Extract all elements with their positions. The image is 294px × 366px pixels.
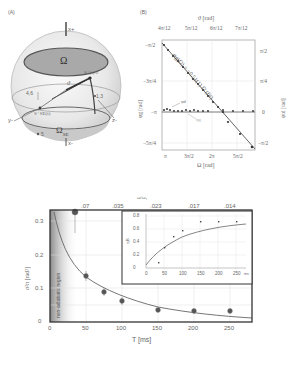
panel-a-label: (A) [8,9,15,15]
phi-g-label: φg [196,117,201,122]
inset-x-tick-50: 50 [162,271,167,276]
phi-d-label: φd [181,99,186,104]
y-axis-title: σ²π [rad²] [24,267,30,290]
bottom-tick-3: 5π/2 [233,153,243,159]
inset-x-tick-100: 100 [179,271,187,276]
bottom-axis-title: Ω [rad] [197,162,215,168]
theta-label: ϑ [67,80,70,86]
axis-z-minus-label: z- [112,117,117,123]
right-tick-0: π/2 [260,48,267,54]
bottom-tick-0: π [164,153,167,159]
y-tick-0.1: 0.1 [35,285,43,291]
marker-label-1-3: 1,3 [96,93,103,99]
left-axis-title: φg [rad] [137,100,143,118]
top-tick-0: 4π/12 [158,25,171,31]
left-tick-0: −π/2 [145,42,155,48]
x-tick-200: 200 [188,325,198,331]
right-tick-1: π/4 [260,78,267,84]
x-tick-100: 100 [116,325,126,331]
marker-label-4-6: 4,6 [26,90,33,96]
top-tick-3: 7π/12 [235,25,248,31]
top-axis-title: ϑ [rad] [198,15,214,21]
y-tick-0.2: 0.2 [35,252,43,258]
axis-x-plus-label: x+ [68,26,75,32]
right-tick-2: 0 [262,109,265,115]
vector-label: S⁺(t) 2 [84,69,98,75]
top-tick-035: .035 [112,203,124,209]
x-tick-250: 250 [224,325,234,331]
right-tick-3: −π/2 [258,140,268,146]
left-tick-2: −π [151,109,157,115]
inset-x-unit: ms [244,272,249,276]
inset-x-tick-250: 250 [233,271,241,276]
inset-y-tick-0.2: 0.2 [133,252,139,257]
top-axis-omega-ratio: ω/ω₁ [137,195,147,200]
x-axis-title: T [ms] [132,336,151,343]
top-tick-014: .014 [224,203,236,209]
right-axis-title: φtd [rad] [280,98,286,118]
inset-x-tick-0: 0 [145,271,148,276]
x-tick-50: 50 [82,325,89,331]
inset-y-axis-title: ηB [125,238,130,244]
inset-y-tick-0: 0 [133,265,136,270]
axis-x-minus-label: x- [68,140,73,146]
top-tick-017: .017 [188,203,200,209]
top-tick-1: 5π/12 [185,25,198,31]
marker-label-5: 5 [41,131,44,137]
omega-label: Ω [60,55,67,66]
bottom-tick-1: 3π/2 [184,153,194,159]
figure-canvas [0,0,294,366]
top-tick-023: .023 [150,203,162,209]
top-tick-2: 6π/12 [210,25,223,31]
inset-x-tick-200: 200 [215,271,223,276]
vector-se-label: S⁺SE(t) [34,110,50,116]
bottom-tick-2: 2π [209,153,215,159]
y-tick-0: 0 [38,318,41,324]
top-tick-07: .07 [81,203,89,209]
omega-se-label: ΩSE [56,125,69,137]
non-adiabatic-label: non-adiabatic region [55,273,61,318]
left-tick-3: −5π/4 [143,140,156,146]
x-tick-150: 150 [152,325,162,331]
panel-b-label: (B) [140,9,147,15]
inset-y-tick-0.8: 0.8 [133,213,139,218]
inset-y-tick-0.6: 0.6 [133,226,139,231]
x-tick-0: 0 [48,325,51,331]
axis-y-minus-label: y- [8,117,13,123]
inset-y-tick-0.4: 0.4 [133,239,139,244]
y-tick-0.3: 0.3 [35,218,43,224]
inset-x-tick-150: 150 [197,271,205,276]
left-tick-1: −3π/4 [143,78,156,84]
